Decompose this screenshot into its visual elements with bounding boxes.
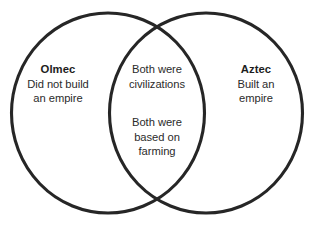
venn-intersection-one-line-1: Both were: [113, 62, 201, 77]
venn-intersection-two-line-2: based on: [113, 130, 201, 145]
venn-intersection-label-one: Both were civilizations: [113, 62, 201, 91]
venn-left-line-1: Did not build: [10, 77, 106, 92]
venn-circles-graphic: [0, 0, 314, 226]
venn-intersection-two-line-3: farming: [113, 144, 201, 159]
venn-intersection-two-line-1: Both were: [113, 115, 201, 130]
venn-diagram: Olmec Did not build an empire Both were …: [0, 0, 314, 226]
venn-intersection-one-line-2: civilizations: [113, 77, 201, 92]
venn-right-line-2: empire: [208, 91, 304, 106]
venn-left-region-label: Olmec Did not build an empire: [10, 62, 106, 106]
venn-right-region-label: Aztec Built an empire: [208, 62, 304, 106]
venn-left-line-2: an empire: [10, 91, 106, 106]
venn-left-heading: Olmec: [10, 62, 106, 77]
venn-right-line-1: Built an: [208, 77, 304, 92]
venn-intersection-label-two: Both were based on farming: [113, 115, 201, 159]
venn-right-heading: Aztec: [208, 62, 304, 77]
